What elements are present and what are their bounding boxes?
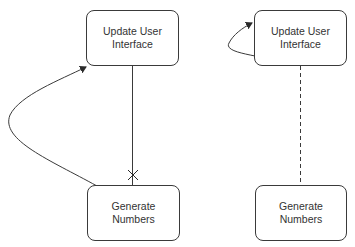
node-label: Update User Interface [271,25,330,51]
right-self-loop-edge [228,23,255,56]
right-generate-numbers-node[interactable]: Generate Numbers [255,185,347,241]
node-label: Generate Numbers [279,200,323,226]
node-label: Generate Numbers [112,200,156,226]
node-label: Update User Interface [103,25,162,51]
left-curved-arrow-edge [9,67,97,186]
left-generate-numbers-node[interactable]: Generate Numbers [87,185,180,241]
right-update-ui-node[interactable]: Update User Interface [254,10,347,66]
left-update-ui-node[interactable]: Update User Interface [86,10,179,66]
